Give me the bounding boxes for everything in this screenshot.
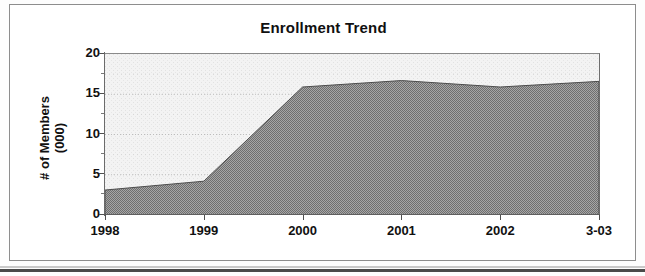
chart-frame: Enrollment Trend # of Members (000) 0 5 … (9, 4, 636, 261)
x-tick-2001 (401, 215, 402, 220)
chart-title: Enrollment Trend (10, 19, 637, 36)
x-tick-label-1999: 1999 (164, 223, 244, 238)
scanned-page-background: Enrollment Trend # of Members (000) 0 5 … (0, 0, 645, 276)
x-tick-label-1998: 1998 (65, 223, 145, 238)
y-axis-tick-labels: 0 5 10 15 20 (62, 53, 100, 214)
x-tick-label-2000: 2000 (263, 223, 343, 238)
y-tick-label-20: 20 (66, 45, 100, 60)
x-axis-line (104, 214, 600, 215)
x-tick-label-2002: 2002 (460, 223, 540, 238)
x-tick-2000 (303, 215, 304, 220)
scan-edge-line (0, 269, 645, 272)
y-axis-line (104, 52, 105, 216)
y-tick-label-5: 5 (66, 166, 100, 181)
area-series-svg (105, 54, 599, 215)
x-tick-3-03 (599, 215, 600, 220)
x-axis-tick-labels: 1998 1999 2000 2001 2002 3-03 (105, 223, 599, 245)
plot-area (105, 53, 600, 215)
x-tick-1999 (204, 215, 205, 220)
scan-edge-highlight (0, 266, 645, 268)
y-tick-label-15: 15 (66, 85, 100, 100)
y-tick-label-0: 0 (66, 206, 100, 221)
x-tick-1998 (105, 215, 106, 220)
x-tick-label-3-03: 3-03 (559, 223, 639, 238)
y-tick-label-10: 10 (66, 126, 100, 141)
x-tick-2002 (500, 215, 501, 220)
x-tick-label-2001: 2001 (361, 223, 441, 238)
